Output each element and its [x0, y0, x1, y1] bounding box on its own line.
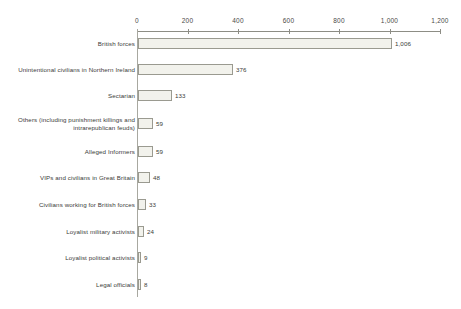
- bar-value-label: 33: [149, 201, 156, 208]
- bar: [138, 279, 141, 290]
- bar-chart: 0 200 400 600 800 1,000 1,200 British fo…: [0, 0, 461, 309]
- bar-value-label: 9: [144, 254, 148, 261]
- bar-category-label: VIPs and civilians in Great Britain: [7, 174, 135, 182]
- bar-row: Others (including punishment killings an…: [0, 118, 461, 142]
- bar-group: 133: [138, 90, 186, 101]
- bar-group: 8: [138, 279, 148, 290]
- bar-value-label: 1,006: [395, 40, 411, 47]
- bar-value-label: 376: [236, 66, 247, 73]
- x-axis: 0 200 400 600 800 1,000 1,200: [137, 31, 440, 32]
- bar: [138, 64, 233, 75]
- bar-row: Loyalist political activists 9: [0, 252, 461, 276]
- bar: [138, 118, 153, 129]
- bar-value-label: 24: [147, 228, 154, 235]
- bar: [138, 146, 153, 157]
- x-axis-tick-label: 400: [232, 17, 243, 24]
- bar-value-label: 59: [156, 120, 163, 127]
- bar-row: Civilians working for British forces 33: [0, 199, 461, 223]
- x-axis-tick: [390, 29, 391, 34]
- x-axis-tick-label: 600: [283, 17, 294, 24]
- bar: [138, 38, 392, 49]
- bar-category-label: Sectarian: [7, 92, 135, 100]
- bar-value-label: 8: [144, 281, 148, 288]
- x-axis-tick: [339, 29, 340, 34]
- bar-row: VIPs and civilians in Great Britain 48: [0, 172, 461, 196]
- bar-category-label: Alleged Informers: [7, 148, 135, 156]
- bar-value-label: 59: [156, 148, 163, 155]
- bar-group: 24: [138, 226, 154, 237]
- bar-category-label: Loyalist political activists: [7, 254, 135, 262]
- bar-row: British forces 1,006: [0, 38, 461, 62]
- bar-group: 33: [138, 199, 156, 210]
- bar: [138, 226, 144, 237]
- x-axis-tick: [440, 29, 441, 34]
- bar-category-label: Legal officials: [7, 281, 135, 289]
- bar-group: 59: [138, 146, 163, 157]
- bar-category-label: Civilians working for British forces: [7, 201, 135, 209]
- bar-category-label: Loyalist military activists: [7, 228, 135, 236]
- x-axis-tick: [188, 29, 189, 34]
- bar: [138, 172, 150, 183]
- bar-row: Legal officials 8: [0, 279, 461, 303]
- bar-group: 1,006: [138, 38, 411, 49]
- bar-row: Loyalist military activists 24: [0, 226, 461, 250]
- x-axis-tick-label: 1,000: [381, 17, 398, 24]
- bar-category-label: British forces: [7, 40, 135, 48]
- bar-group: 9: [138, 252, 148, 263]
- bar-value-label: 48: [153, 174, 160, 181]
- bar-row: Sectarian 133: [0, 90, 461, 114]
- x-axis-tick-label: 800: [333, 17, 344, 24]
- x-axis-tick: [289, 29, 290, 34]
- bar-category-label: Others (including punishment killings an…: [7, 116, 135, 131]
- bar-value-label: 133: [175, 92, 186, 99]
- bar: [138, 199, 146, 210]
- x-axis-tick-label: 0: [135, 17, 139, 24]
- bar-group: 59: [138, 118, 163, 129]
- x-axis-tick-label: 200: [182, 17, 193, 24]
- bar: [138, 252, 141, 263]
- x-axis-tick-label: 1,200: [431, 17, 448, 24]
- bar-row: Alleged Informers 59: [0, 146, 461, 170]
- bar-row: Unintentional civilians in Northern Irel…: [0, 64, 461, 88]
- bar-category-label: Unintentional civilians in Northern Irel…: [7, 66, 135, 74]
- bar: [138, 90, 172, 101]
- bar-group: 376: [138, 64, 247, 75]
- bar-group: 48: [138, 172, 160, 183]
- x-axis-tick: [238, 29, 239, 34]
